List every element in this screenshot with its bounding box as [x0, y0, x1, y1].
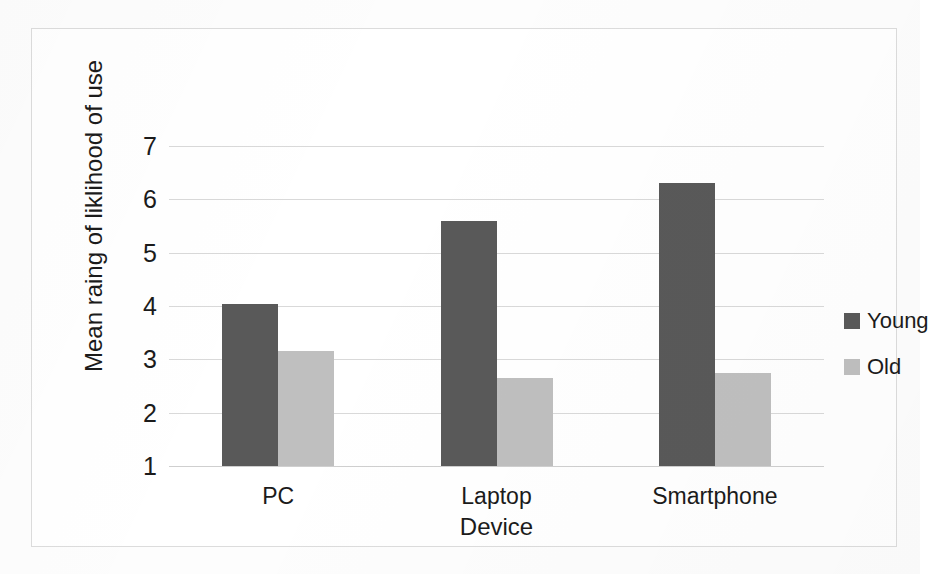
y-axis-title: Mean raing of liklihood of use [82, 72, 106, 372]
gridline [169, 146, 824, 147]
y-axis-tick-label: 1 [143, 454, 157, 479]
x-axis-tick-label: Laptop [461, 485, 531, 508]
x-axis-title: Device [169, 515, 824, 539]
gridline [169, 466, 824, 467]
gridline [169, 253, 824, 254]
bar-old-smartphone [715, 373, 771, 466]
bar-old-pc [278, 351, 334, 466]
plot-area: 7654321PCLaptopSmartphone [169, 146, 824, 466]
bar-old-laptop [497, 378, 553, 466]
legend-label: Old [867, 356, 901, 378]
y-axis-tick-label: 2 [143, 400, 157, 425]
y-axis-tick-label: 5 [143, 240, 157, 265]
legend-entry-young: Young [844, 310, 929, 332]
legend-label: Young [867, 310, 929, 332]
x-axis-tick-label: Smartphone [652, 485, 777, 508]
bar-young-laptop [441, 221, 497, 466]
y-axis-tick-label: 6 [143, 187, 157, 212]
x-axis-tick-label: PC [262, 485, 294, 508]
legend-swatch-icon [844, 313, 860, 329]
gridline [169, 199, 824, 200]
chart-legend: YoungOld [844, 310, 929, 402]
bar-young-pc [222, 304, 278, 466]
legend-swatch-icon [844, 359, 860, 375]
y-axis-tick-label: 4 [143, 294, 157, 319]
bar-young-smartphone [659, 183, 715, 466]
chart-frame: Mean raing of liklihood of use 7654321PC… [31, 28, 897, 547]
y-axis-tick-label: 3 [143, 347, 157, 372]
y-axis-tick-label: 7 [143, 134, 157, 159]
legend-entry-old: Old [844, 356, 929, 378]
